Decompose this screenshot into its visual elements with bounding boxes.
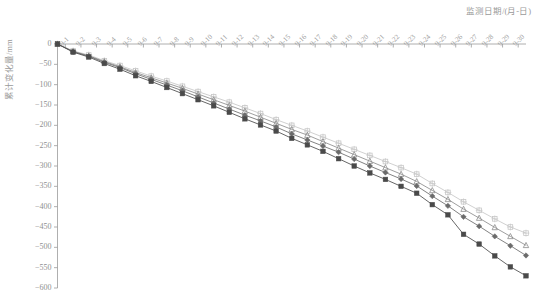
data-point-marker — [524, 274, 529, 279]
data-point-marker — [86, 55, 91, 60]
data-point-marker — [492, 254, 497, 259]
data-point-marker — [352, 164, 357, 169]
plot-area — [0, 0, 539, 303]
data-point-marker — [227, 110, 232, 115]
data-point-marker — [460, 198, 467, 205]
data-point-marker — [429, 180, 436, 187]
data-point-marker — [446, 213, 451, 218]
data-point-marker — [476, 207, 483, 214]
data-point-marker — [258, 123, 263, 128]
data-point-marker — [304, 128, 311, 135]
data-point-marker — [274, 129, 279, 134]
data-point-marker — [133, 73, 138, 78]
data-point-marker — [461, 214, 466, 219]
data-point-marker — [413, 171, 420, 178]
data-point-marker — [305, 143, 310, 148]
data-series-series-1 — [55, 42, 528, 278]
data-point-marker — [398, 164, 405, 171]
data-point-marker — [476, 223, 481, 228]
data-point-marker — [399, 184, 404, 189]
data-point-marker — [523, 230, 530, 237]
data-point-marker — [71, 50, 76, 55]
data-point-marker — [289, 136, 294, 141]
data-point-marker — [367, 163, 372, 168]
data-point-marker — [383, 177, 388, 182]
data-point-marker — [508, 243, 513, 248]
data-point-marker — [507, 224, 514, 231]
data-point-marker — [196, 97, 201, 102]
data-point-marker — [492, 234, 497, 239]
data-point-marker — [383, 170, 388, 175]
data-point-marker — [336, 156, 341, 161]
data-point-marker — [118, 67, 123, 72]
data-point-marker — [211, 104, 216, 109]
data-point-marker — [477, 242, 482, 247]
series-line — [58, 44, 527, 276]
data-point-marker — [321, 149, 326, 154]
data-point-marker — [461, 232, 466, 237]
data-point-marker — [149, 79, 154, 84]
axes — [54, 44, 526, 288]
data-point-marker — [398, 176, 403, 181]
data-point-marker — [165, 85, 170, 90]
data-series-series-2 — [55, 41, 529, 258]
series-line — [58, 44, 527, 255]
data-point-marker — [430, 202, 435, 207]
data-point-marker — [305, 137, 310, 142]
data-point-marker — [445, 189, 452, 196]
data-point-marker — [523, 253, 528, 258]
data-series-layer — [54, 41, 529, 279]
data-point-marker — [288, 122, 295, 129]
data-point-marker — [508, 265, 513, 270]
series-line — [58, 44, 527, 245]
data-point-marker — [430, 193, 435, 198]
data-point-marker — [243, 117, 248, 122]
data-point-marker — [55, 42, 60, 47]
cumulative-displacement-chart: 监测日期/(月-日) 累计变化量/mm 0−50−100−150−200−250… — [0, 0, 539, 303]
data-point-marker — [491, 215, 498, 222]
data-point-marker — [180, 91, 185, 96]
data-point-marker — [414, 191, 419, 196]
data-point-marker — [445, 203, 450, 208]
data-point-marker — [102, 61, 107, 66]
data-point-marker — [368, 171, 373, 176]
